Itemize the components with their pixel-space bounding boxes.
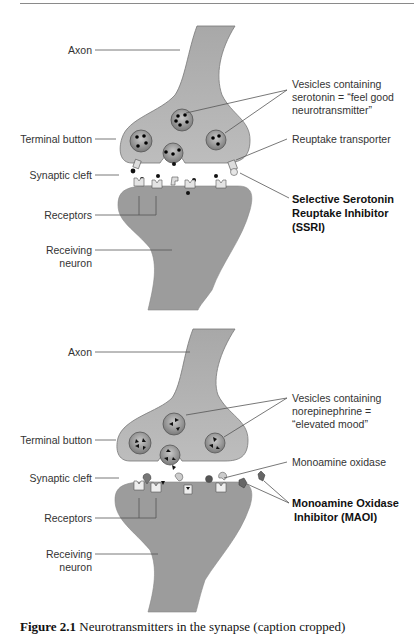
label-reuptake-transporter: Reuptake transporter [292,133,391,146]
label-receptors-top: Receptors [10,209,92,222]
label-ssri-3: (SSRI) [292,221,325,234]
label-maoi-1: Monoamine Oxidase [292,497,399,510]
caption-text: Neurotransmitters in the synapse (captio… [79,619,345,634]
vesicle-releasing [160,445,180,465]
label-axon-top: Axon [40,44,92,57]
vesicle [205,433,225,453]
vesicle-releasing [163,143,183,163]
label-terminal-button-bottom: Terminal button [10,434,92,447]
label-maoi-2: Inhibitor (MAOI) [294,511,377,524]
label-receiving-neuron-bottom-2: neuron [10,561,92,574]
label-receiving-neuron-top-2: neuron [10,257,92,270]
label-receptors-bottom: Receptors [10,512,92,525]
receiving-neuron-shape [115,482,252,612]
vesicle [129,432,151,454]
top-synapse [95,26,289,310]
label-vesicles-serotonin-1: Vesicles containing [292,78,381,91]
label-terminal-button-top: Terminal button [10,133,92,146]
label-synaptic-cleft-bottom: Synaptic cleft [10,472,92,485]
ssri-molecule-cleft [171,177,178,185]
vesicle [206,130,226,150]
label-synaptic-cleft-top: Synaptic cleft [10,169,92,182]
label-vesicles-norepinephrine-2: norepinephrine = [292,405,371,418]
vesicle [163,413,185,435]
label-vesicles-norepinephrine-1: Vesicles containing [292,392,381,405]
label-vesicles-serotonin-3: neurotransmitter” [292,104,372,117]
receiving-neuron-shape [118,186,252,310]
label-ssri-2: Reuptake Inhibitor [292,207,389,220]
vesicle [130,130,152,152]
ssri-molecule [231,169,238,176]
label-ssri-1: Selective Serotonin [292,193,394,206]
label-vesicles-norepinephrine-3: “elevated mood” [292,418,368,431]
figure-caption: Figure 2.1 Neurotransmitters in the syna… [20,619,345,635]
label-receiving-neuron-bottom-1: Receiving [10,548,92,561]
label-vesicles-serotonin-2: serotonin = “feel good [292,91,394,104]
bottom-synapse [95,329,289,612]
label-monoamine-oxidase: Monoamine oxidase [292,456,386,469]
label-receiving-neuron-top-1: Receiving [10,244,92,257]
label-axon-bottom: Axon [40,346,92,359]
caption-prefix: Figure 2.1 [20,619,76,634]
